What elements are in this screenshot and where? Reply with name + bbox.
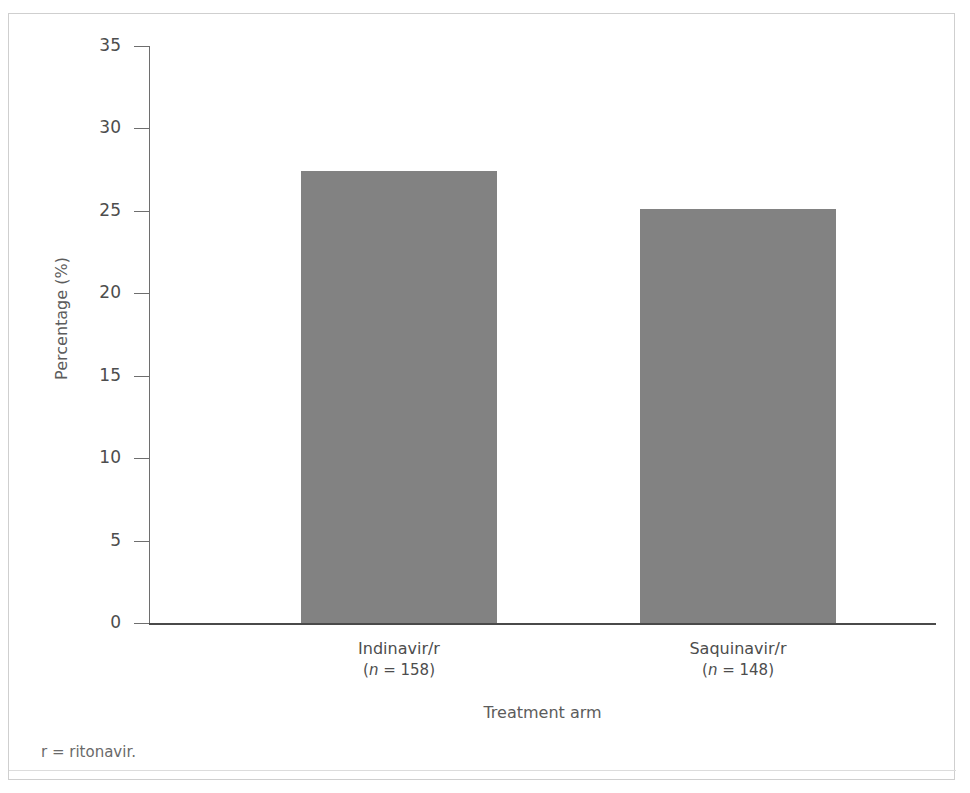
x-axis-category-label: Saquinavir/r(n = 148)	[588, 637, 888, 682]
x-axis-line	[149, 623, 936, 625]
bar	[640, 209, 836, 623]
x-axis-title: Treatment arm	[149, 703, 936, 722]
footnote-divider	[9, 770, 956, 771]
category-name: Indinavir/r	[358, 639, 440, 658]
figure-footnote: r = ritonavir.	[41, 743, 136, 761]
chart-plot-area: 05101520253035 Percentage (%) Indinavir/…	[9, 14, 956, 781]
category-sample-size: (n = 158)	[249, 660, 549, 682]
category-name: Saquinavir/r	[689, 639, 786, 658]
figure-frame: 05101520253035 Percentage (%) Indinavir/…	[8, 13, 955, 780]
category-sample-size: (n = 148)	[588, 660, 888, 682]
bar	[301, 171, 497, 623]
x-axis-category-label: Indinavir/r(n = 158)	[249, 637, 549, 682]
bars-layer	[9, 14, 956, 623]
y-axis-tick-mark	[134, 623, 149, 624]
